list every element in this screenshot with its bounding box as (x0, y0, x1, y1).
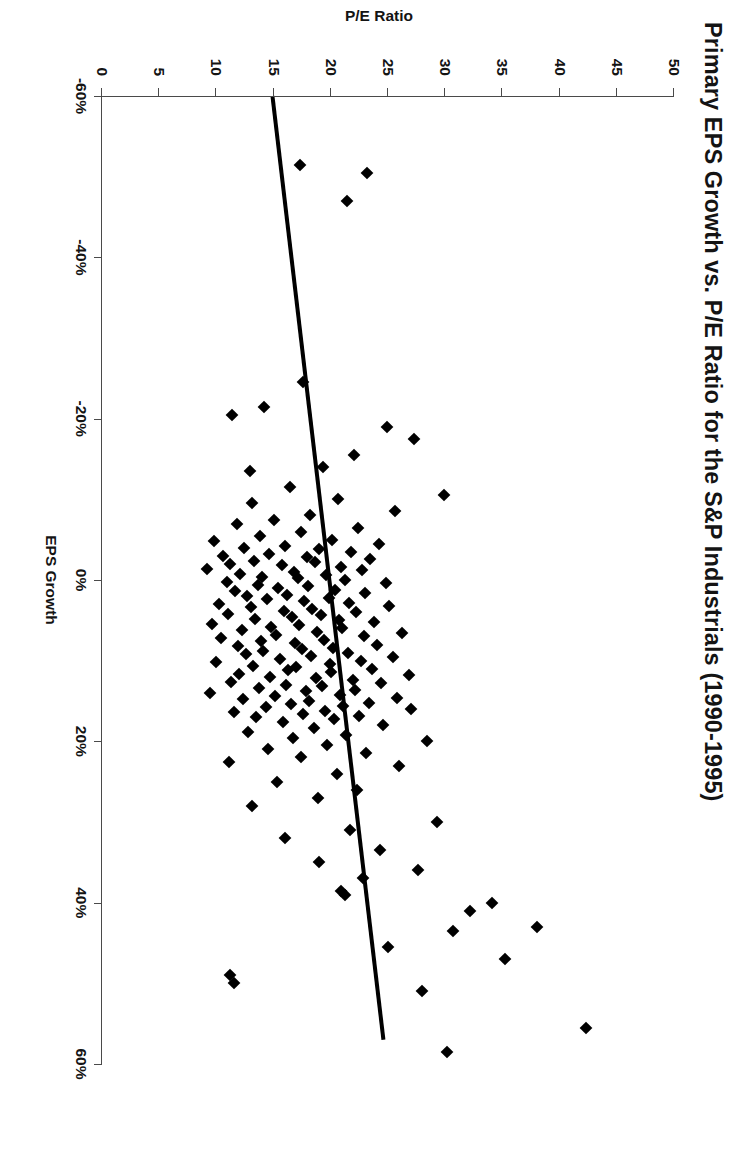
x-tick (94, 257, 102, 258)
x-axis-title: EPS Growth (42, 96, 60, 1064)
y-tick-label: 25 (379, 36, 397, 76)
x-tick-label: 20% (72, 726, 90, 757)
x-tick (94, 1064, 102, 1065)
x-tick (94, 741, 102, 742)
x-tick-label: 40% (72, 887, 90, 918)
y-tick-label: 40 (551, 36, 569, 76)
x-tick (94, 419, 102, 420)
y-tick (330, 88, 331, 96)
x-tick (94, 903, 102, 904)
y-tick-label: 10 (207, 36, 225, 76)
y-tick (158, 88, 159, 96)
y-tick-label: 0 (93, 36, 111, 76)
y-tick-label: 50 (665, 36, 683, 76)
y-tick-label: 30 (436, 36, 454, 76)
y-axis-title: P/E Ratio (345, 7, 413, 25)
y-tick-label: 45 (608, 36, 626, 76)
x-tick-label: -40% (72, 239, 90, 275)
x-tick-label: -60% (72, 78, 90, 114)
y-tick (387, 88, 388, 96)
y-tick (444, 88, 445, 96)
y-tick-label: 20 (322, 36, 340, 76)
y-tick-label: 35 (493, 36, 511, 76)
y-tick (616, 88, 617, 96)
plot-area (102, 96, 674, 1064)
y-axis-line (101, 96, 674, 97)
rotated-figure-stage: Primary EPS Growth vs. P/E Ratio for the… (0, 0, 736, 1166)
y-tick-label: 5 (150, 36, 168, 76)
x-tick (94, 580, 102, 581)
y-tick (215, 88, 216, 96)
x-tick-label: 0% (72, 569, 90, 591)
page-title: Primary EPS Growth vs. P/E Ratio for the… (699, 22, 726, 802)
y-tick (673, 88, 674, 96)
y-tick (501, 88, 502, 96)
y-tick (101, 88, 102, 96)
x-tick (94, 96, 102, 97)
y-tick-label: 15 (265, 36, 283, 76)
y-tick (273, 88, 274, 96)
y-tick (559, 88, 560, 96)
x-tick-label: 60% (72, 1048, 90, 1079)
x-tick-label: -20% (72, 401, 90, 437)
